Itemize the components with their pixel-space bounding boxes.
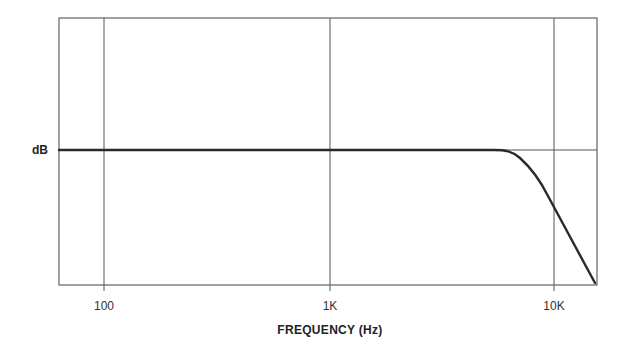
xtick-label-10k: 10K xyxy=(543,299,564,313)
xtick-label-100: 100 xyxy=(94,299,114,313)
response-curve xyxy=(59,150,595,283)
plot-frame xyxy=(59,18,597,285)
xtick-label-1k: 1K xyxy=(323,299,338,313)
x-axis-title: FREQUENCY (Hz) xyxy=(277,323,382,337)
y-axis-label-db: dB xyxy=(32,143,48,157)
frequency-response-chart xyxy=(0,0,627,350)
